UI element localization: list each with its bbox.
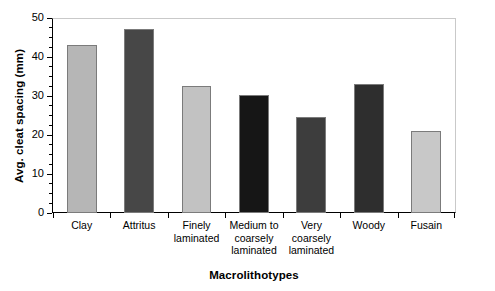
x-category-label: Medium tocoarselylaminated bbox=[225, 219, 282, 257]
y-axis-ticks: 01020304050 bbox=[0, 18, 52, 213]
x-category-label: Verycoarselylaminated bbox=[283, 219, 340, 257]
y-tick-label: 40 bbox=[32, 49, 44, 64]
y-tick-label: 10 bbox=[32, 166, 44, 181]
x-tick-mark bbox=[398, 213, 399, 218]
x-category-label-line: laminated bbox=[225, 244, 282, 257]
bar-clay[interactable] bbox=[67, 45, 97, 213]
x-tick-mark bbox=[340, 213, 341, 218]
x-tick-mark bbox=[454, 213, 455, 218]
x-tick-mark bbox=[168, 213, 169, 218]
x-tick-mark bbox=[110, 213, 111, 218]
y-tick-label: 30 bbox=[32, 88, 44, 103]
bar-medium-to-coarsely-laminated[interactable] bbox=[239, 95, 269, 213]
x-category-label-line: coarsely bbox=[225, 232, 282, 245]
y-tick-label: 20 bbox=[32, 127, 44, 142]
x-category-label: Clay bbox=[53, 219, 110, 232]
x-axis-title: Macrolithotypes bbox=[53, 269, 455, 281]
bars-layer bbox=[53, 18, 455, 213]
x-category-label-line: laminated bbox=[283, 244, 340, 257]
x-category-label-line: Very bbox=[283, 219, 340, 232]
x-tick-mark bbox=[283, 213, 284, 218]
x-category-label: Attritus bbox=[110, 219, 167, 232]
x-category-label-line: Finely bbox=[168, 219, 225, 232]
bar-very-coarsely-laminated[interactable] bbox=[296, 117, 326, 213]
bar-chart: Avg. cleat spacing (mm) 01020304050 Clay… bbox=[0, 0, 495, 291]
x-category-label-line: coarsely bbox=[283, 232, 340, 245]
x-axis-category-labels: ClayAttritusFinelylaminatedMedium tocoar… bbox=[53, 219, 455, 267]
x-tick-mark bbox=[225, 213, 226, 218]
x-category-label-line: Fusain bbox=[398, 219, 455, 232]
bar-woody[interactable] bbox=[354, 84, 384, 213]
x-category-label-line: Attritus bbox=[110, 219, 167, 232]
x-tick-mark bbox=[53, 213, 54, 218]
x-category-label: Woody bbox=[340, 219, 397, 232]
x-category-label-line: laminated bbox=[168, 232, 225, 245]
y-tick-label: 50 bbox=[32, 10, 44, 25]
x-category-label: Fusain bbox=[398, 219, 455, 232]
x-category-label: Finelylaminated bbox=[168, 219, 225, 244]
x-category-label-line: Medium to bbox=[225, 219, 282, 232]
x-category-label-line: Clay bbox=[53, 219, 110, 232]
x-category-label-line: Woody bbox=[340, 219, 397, 232]
bar-finely-laminated[interactable] bbox=[182, 86, 212, 213]
y-tick-label: 0 bbox=[38, 205, 44, 220]
bar-fusain[interactable] bbox=[411, 131, 441, 213]
bar-attritus[interactable] bbox=[124, 29, 154, 213]
